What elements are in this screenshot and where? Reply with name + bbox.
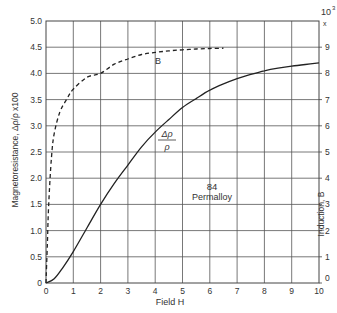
y2-tick-label: 8 bbox=[325, 68, 330, 78]
y2-tick-label: 4 bbox=[325, 173, 330, 183]
x-tick-label: 2 bbox=[98, 286, 103, 296]
y-tick-label: 4.5 bbox=[30, 42, 42, 52]
curve-rho-label-numerator: Δρ bbox=[160, 129, 172, 139]
y-tick-label: 3.0 bbox=[30, 121, 42, 131]
x-tick-label: 5 bbox=[180, 286, 185, 296]
x-tick-label: 0 bbox=[44, 286, 49, 296]
material-label-line1: 84 bbox=[207, 181, 218, 192]
x-axis-title: Field H bbox=[156, 297, 185, 307]
y-axis-title: Magnetoresistance, Δρ/ρ x100 bbox=[10, 92, 20, 207]
y-tick-label: 1.5 bbox=[30, 199, 42, 209]
x-tick-label: 10 bbox=[314, 286, 324, 296]
y-tick-label: 1.0 bbox=[30, 226, 42, 236]
y2-multiplier-x: x bbox=[323, 20, 327, 27]
y2-tick-label: 9 bbox=[325, 42, 330, 52]
y-tick-label: 0 bbox=[37, 278, 42, 288]
y2-tick-label: 7 bbox=[325, 95, 330, 105]
x-axis-ticks: 012345678910 bbox=[44, 286, 324, 296]
y-tick-label: 3.5 bbox=[30, 95, 42, 105]
grid-lines bbox=[46, 21, 319, 283]
y2-tick-label: 6 bbox=[325, 121, 330, 131]
y2-axis-title: Induction, B bbox=[316, 191, 326, 236]
y2-tick-label: 1 bbox=[325, 252, 330, 262]
y2-multiplier-base: 10 bbox=[321, 7, 331, 17]
y-tick-label: 2.5 bbox=[30, 147, 42, 157]
x-tick-label: 4 bbox=[153, 286, 158, 296]
y2-multiplier-exponent: 3 bbox=[332, 5, 336, 11]
x-tick-label: 1 bbox=[71, 286, 76, 296]
material-label-line2: Permalloy bbox=[192, 192, 233, 202]
y2-tick-label: 5 bbox=[325, 147, 330, 157]
x-tick-label: 6 bbox=[207, 286, 212, 296]
magnetoresistance-chart: 012345678910 00.51.01.52.02.53.03.54.04.… bbox=[0, 0, 337, 313]
x-tick-label: 3 bbox=[126, 286, 131, 296]
y-tick-label: 4.0 bbox=[30, 68, 42, 78]
curve-rho-label-denominator: ρ bbox=[163, 142, 169, 152]
x-tick-label: 7 bbox=[235, 286, 240, 296]
x-tick-label: 8 bbox=[262, 286, 267, 296]
y2-tick-label: 0 bbox=[325, 273, 330, 283]
x-tick-label: 9 bbox=[289, 286, 294, 296]
y-tick-label: 0.5 bbox=[30, 252, 42, 262]
y2-axis-ticks: 0123456789 bbox=[319, 42, 330, 283]
y-tick-label: 2.0 bbox=[30, 173, 42, 183]
curve-b-label: B bbox=[155, 56, 161, 66]
y-axis-ticks: 00.51.01.52.02.53.03.54.04.55.0 bbox=[30, 16, 42, 288]
y-tick-label: 5.0 bbox=[30, 16, 42, 26]
induction-curve bbox=[46, 48, 224, 283]
